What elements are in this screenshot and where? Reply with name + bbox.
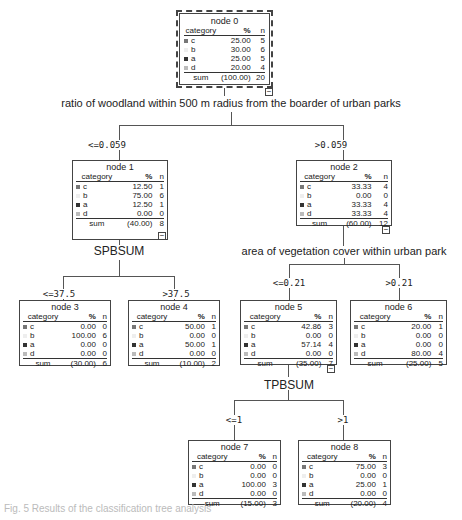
cat: a — [309, 480, 313, 489]
pct: 0.00 — [63, 340, 96, 349]
node-table: category%n c20.001 b0.000 a0.000 d80.004… — [354, 312, 443, 368]
col-category: category — [244, 312, 286, 322]
swatch-a — [302, 483, 306, 487]
figure-caption: Fig. 5 Results of the classification tre… — [4, 503, 211, 514]
sum-pct: (30.00) — [63, 359, 96, 369]
n: 4 — [372, 182, 388, 192]
connector — [63, 276, 175, 277]
col-category: category — [302, 452, 342, 462]
pct: 0.00 — [118, 209, 153, 219]
col-category: category — [76, 172, 118, 182]
cat: c — [309, 462, 313, 471]
sum-n: 8 — [152, 219, 164, 229]
swatch-b — [23, 334, 27, 338]
col-pct: % — [396, 312, 431, 322]
node-7[interactable]: node 7 category%n c0.000 b0.000 a100.003… — [188, 440, 281, 505]
col-category: category — [354, 312, 396, 322]
cat: a — [139, 340, 143, 349]
split-condition-left: <=0.21 — [272, 278, 307, 288]
swatch-d — [302, 492, 306, 496]
node-title: node 3 — [23, 302, 107, 312]
cat: a — [30, 340, 34, 349]
col-pct: % — [232, 452, 265, 462]
split-condition-right: >0.059 — [314, 140, 349, 150]
node-0[interactable]: node 0 category%n c25.005 b30.006 a25.00… — [176, 10, 273, 88]
pct: 75.00 — [342, 462, 375, 472]
pct: 0.00 — [172, 349, 205, 359]
n: 1 — [376, 480, 387, 489]
swatch-b — [184, 48, 188, 52]
node-table: category%n c25.005 b30.006 a25.005 d20.0… — [184, 26, 265, 82]
node-2[interactable]: node 2 category%n c33.334 b0.000 a33.334… — [296, 160, 392, 226]
swatch-c — [76, 185, 80, 189]
node-4[interactable]: node 4 category%n c50.001 b0.000 a50.001… — [128, 300, 220, 366]
col-pct: % — [172, 312, 205, 322]
n: 1 — [205, 322, 216, 332]
pct: 25.00 — [342, 480, 375, 489]
connector — [119, 125, 344, 126]
col-n: n — [431, 312, 443, 322]
sum-label: sum — [244, 359, 286, 369]
swatch-b — [300, 194, 304, 198]
cat: d — [199, 489, 203, 498]
col-category: category — [192, 452, 232, 462]
swatch-d — [184, 66, 188, 70]
cat: a — [199, 480, 203, 489]
swatch-a — [132, 343, 136, 347]
node-5[interactable]: node 5 category%n c42.863 b0.000 a57.144… — [240, 300, 337, 365]
n: 6 — [152, 191, 164, 200]
sum-pct: (25.00) — [396, 359, 431, 369]
swatch-c — [244, 325, 248, 329]
n: 4 — [321, 340, 333, 349]
pct: 12.50 — [118, 200, 153, 209]
pct: 100.00 — [63, 331, 96, 340]
cat: b — [30, 331, 34, 340]
split-condition-right: >0.21 — [384, 278, 413, 288]
swatch-a — [300, 203, 304, 207]
n: 0 — [376, 489, 387, 499]
n: 4 — [431, 349, 443, 359]
col-pct: % — [339, 172, 371, 182]
node-table: category%n c12.501 b75.006 a12.501 d0.00… — [76, 172, 164, 228]
n: 0 — [266, 471, 277, 480]
cat: a — [307, 200, 311, 209]
swatch-d — [192, 492, 196, 496]
connector — [289, 264, 400, 265]
node-table: category%n c0.000 b0.000 a100.003 d0.000… — [192, 452, 277, 508]
n: 3 — [266, 480, 277, 489]
swatch-a — [354, 343, 358, 347]
pct: 0.00 — [339, 191, 371, 200]
node-table: category%n c42.863 b0.000 a57.144 d0.000… — [244, 312, 333, 368]
node-title: node 5 — [244, 302, 333, 312]
col-pct: % — [342, 452, 375, 462]
collapse-node-0-button[interactable]: − — [265, 88, 273, 96]
pct: 25.00 — [218, 36, 251, 46]
pct: 0.00 — [63, 349, 96, 359]
collapse-node-5-button[interactable]: − — [327, 365, 335, 373]
swatch-a — [244, 343, 248, 347]
pct: 42.86 — [286, 322, 321, 332]
collapse-node-2-button[interactable]: − — [382, 226, 390, 234]
node-3[interactable]: node 3 category%n c0.000 b100.006 a0.000… — [19, 300, 111, 366]
col-n: n — [372, 172, 388, 182]
cat: b — [361, 331, 365, 340]
n: 0 — [152, 209, 164, 219]
cat: d — [191, 63, 195, 72]
swatch-d — [244, 352, 248, 356]
node-6[interactable]: node 6 category%n c20.001 b0.000 a0.000 … — [350, 300, 447, 365]
node-8[interactable]: node 8 category%n c75.003 b0.000 a25.001… — [298, 440, 391, 505]
sum-label: sum — [76, 219, 118, 229]
split-condition-left: <=1 — [225, 415, 243, 425]
n: 1 — [152, 200, 164, 209]
pct: 33.33 — [339, 182, 371, 192]
cat: c — [199, 462, 203, 471]
connector — [343, 226, 344, 246]
sum-pct: (40.00) — [118, 219, 153, 229]
node-1[interactable]: node 1 category%n c12.501 b75.006 a12.50… — [72, 160, 168, 240]
cat: b — [199, 471, 203, 480]
pct: 0.00 — [172, 331, 205, 340]
col-n: n — [96, 312, 107, 322]
n: 4 — [372, 200, 388, 209]
collapse-node-1-button[interactable]: − — [158, 232, 166, 240]
row-c: c25.005 — [184, 36, 265, 46]
